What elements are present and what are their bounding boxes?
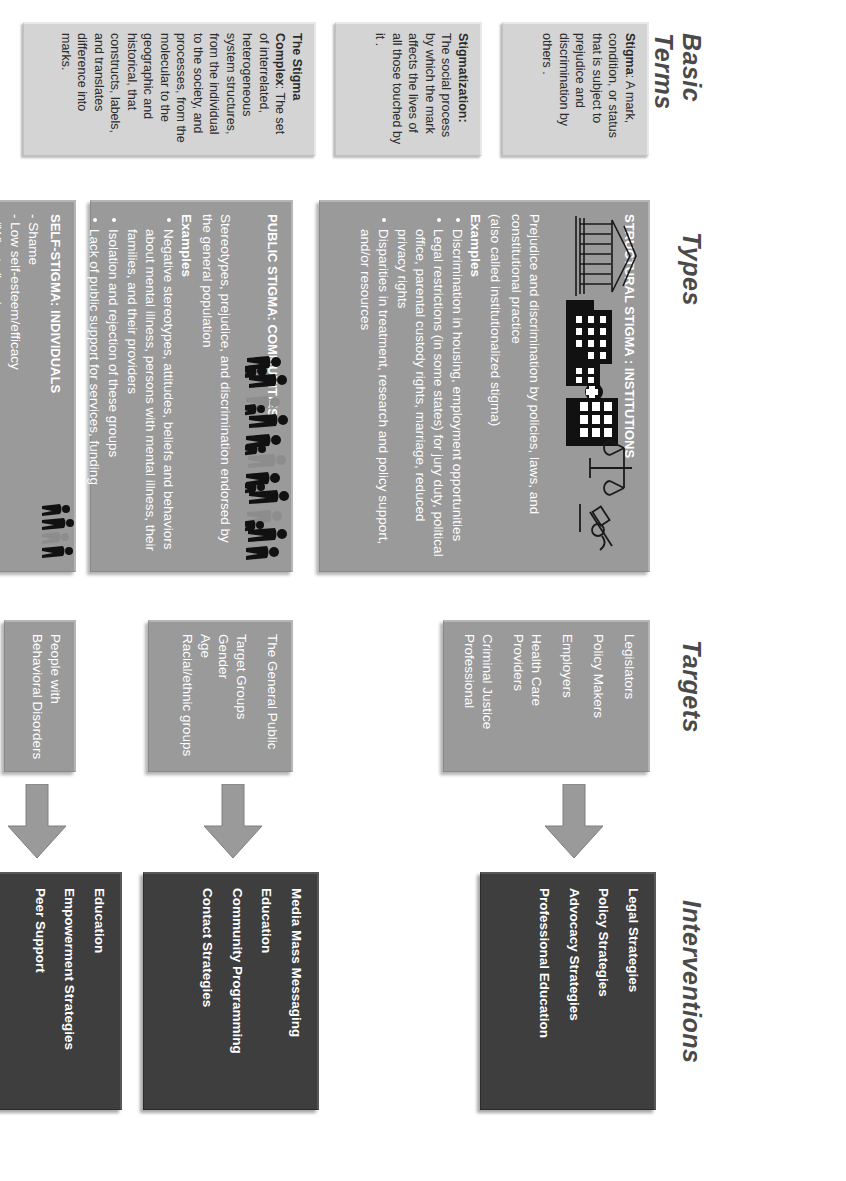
intervention-item: Advocacy Strategies (565, 888, 583, 1097)
basic-term-title: Stigma (623, 33, 637, 75)
column-heading-types: Types (678, 232, 706, 362)
target-item: Legislators (620, 634, 638, 761)
small-group-of-people-icon (40, 502, 76, 566)
basic-term-body: : The set of interrelated, heterogeneous… (59, 33, 288, 143)
intervention-item: Peer Support (31, 888, 49, 1097)
basic-term-card-stigma: Stigma: A mark, condition, or status tha… (502, 22, 649, 156)
type-card-self-stigma: SELF-STIGMA: INDIVIDUALS - Shame - Low s… (0, 200, 76, 572)
intervention-item: Community Programming (228, 888, 246, 1097)
type-card-dashed-item: - Shame (24, 214, 42, 561)
target-item: Employers (558, 634, 576, 761)
crowd-of-people-icon (245, 352, 289, 566)
type-card-paragraph: Stereotypes, prejudice, and discriminati… (197, 214, 233, 561)
target-item: People with Behavioral Disorders (28, 634, 64, 761)
target-item: Health Care Providers (509, 634, 545, 761)
column-heading-targets: Targets (678, 640, 706, 780)
basic-term-body: The social process by which the mark aff… (374, 33, 454, 144)
hospital-icon (566, 383, 618, 446)
targets-card-individuals: People with Behavioral Disorders (4, 620, 76, 772)
type-card-example-item: Discrimination in housing, employment op… (448, 229, 466, 561)
arrow-institutions (545, 784, 603, 858)
stigma-framework-diagram: Basic Terms Types Targets Interventions … (0, 0, 846, 1181)
intervention-item: Education (90, 888, 108, 1097)
intervention-item: Policy Strategies (595, 888, 613, 1097)
arrow-individuals (8, 784, 66, 858)
diagram-canvas-rotated: Basic Terms Types Targets Interventions … (0, 0, 846, 1181)
type-card-dashed-item: - Low self-esteem/efficacy (5, 214, 23, 561)
intervention-item: Contact Strategies (199, 888, 217, 1097)
intervention-item: Media Mass Messaging (287, 888, 305, 1097)
basic-term-card-stigmatization: Stigmatization: The social process by wh… (335, 22, 482, 156)
arrow-communities (204, 784, 262, 858)
targets-card-communities: The General Public Target Groups Gender … (148, 620, 293, 772)
type-card-example-item: Isolation and rejection of these groups (104, 229, 122, 561)
type-card-examples-label: Examples (466, 214, 484, 561)
type-card-paragraph: Prejudice and discrimination by policies… (506, 214, 542, 561)
type-card-example-item: Lack of public support for services, fun… (85, 229, 103, 561)
type-card-paragraph: (also called institutionalized stigma) (486, 214, 504, 561)
courthouse-icon (564, 212, 642, 564)
column-heading-basic-terms: Basic Terms (650, 33, 706, 163)
type-card-example-item: Disparities in treatment, research and p… (356, 229, 392, 561)
gavel-icon (580, 504, 612, 550)
interventions-card-individuals: Education Empowerment Strategies Peer Su… (0, 872, 122, 1110)
intervention-item: Education (258, 888, 276, 1097)
interventions-card-institutions: Legal Strategies Policy Strategies Advoc… (480, 872, 656, 1110)
type-card-examples-label: Examples (177, 214, 195, 561)
target-item: Gender (214, 634, 232, 761)
basic-term-card-stigma-complex: The Stigma Complex: The set of interrela… (23, 22, 316, 156)
intervention-item: Professional Education (536, 888, 554, 1097)
type-card-structural-stigma: STRUCTURAL STIGMA : INSTITUTIONS Prejudi… (319, 200, 650, 572)
type-card-dashed-item: - “Why-try” cycle (0, 214, 5, 561)
column-heading-interventions: Interventions (678, 900, 706, 1120)
target-item: Policy Makers (589, 634, 607, 761)
interventions-card-communities: Media Mass Messaging Education Community… (143, 872, 319, 1110)
target-item: Target Groups (232, 634, 250, 761)
intervention-item: Legal Strategies (624, 888, 642, 1097)
type-card-example-item: Negative stereotypes, attitudes, beliefs… (123, 229, 177, 561)
target-item: Racial/ethnic groups (178, 634, 196, 761)
type-card-example-list: Negative stereotypes, attitudes, beliefs… (66, 214, 177, 561)
target-item: Criminal Justice Professional (459, 634, 495, 761)
type-card-example-item: Legal restrictions (in some states) for … (393, 229, 447, 561)
targets-card-institutions: Legislators Policy Makers Employers Heal… (443, 620, 650, 772)
scales-of-justice-icon (590, 441, 632, 495)
type-card-example-list: Discrimination in housing, employment op… (356, 214, 466, 561)
institutions-clipart-group (564, 212, 642, 564)
intervention-item: Empowerment Strategies (61, 888, 79, 1097)
target-item: Age (196, 634, 214, 761)
type-card-public-stigma: PUBLIC STIGMA: COMMUNITIES Stereotypes, … (90, 200, 293, 572)
target-item: The General Public (263, 634, 281, 761)
basic-term-title: Stigmatization: (456, 33, 470, 123)
